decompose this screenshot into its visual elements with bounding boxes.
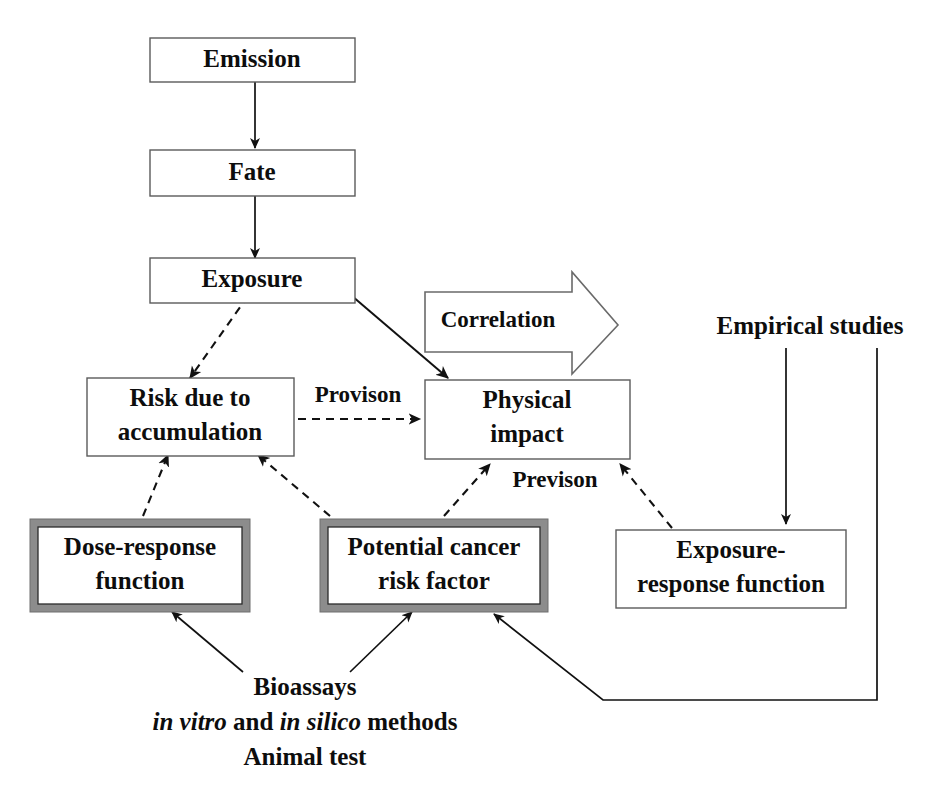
- node-dose-response-function[interactable]: Dose-response function: [30, 519, 250, 612]
- empirical-studies-label: Empirical studies: [717, 312, 904, 339]
- edge-dose-risk: [143, 455, 168, 516]
- node-fate[interactable]: Fate: [150, 150, 355, 196]
- node-risk-due-to-accumulation[interactable]: Risk due to accumulation: [87, 378, 294, 456]
- node-risk-label-line2: accumulation: [118, 418, 263, 445]
- node-cancer-label-line1: Potential cancer: [348, 533, 521, 560]
- diagram-canvas: Correlation Emission Fate Exposure Risk …: [0, 0, 942, 804]
- flowchart-svg: Correlation Emission Fate Exposure Risk …: [0, 0, 942, 804]
- correlation-block-arrow: Correlation: [425, 272, 618, 374]
- node-physical-label-line2: impact: [490, 420, 564, 447]
- in-silico-text: in silico: [280, 708, 361, 735]
- node-physical-impact[interactable]: Physical impact: [425, 380, 630, 459]
- edge-cancer-risk: [258, 455, 330, 516]
- provison-label: Provison: [315, 382, 402, 407]
- bioassays-label: Bioassays: [254, 673, 357, 700]
- node-risk-label-line1: Risk due to: [130, 384, 251, 411]
- node-dose-label-line1: Dose-response: [64, 533, 216, 560]
- node-expresp-label-line2: response function: [637, 570, 825, 597]
- in-vitro-text: in vitro: [153, 708, 227, 735]
- node-physical-label-line1: Physical: [483, 386, 572, 413]
- edge-expresp-physical: [620, 464, 672, 528]
- edge-bioassays-dose: [172, 612, 243, 672]
- node-cancer-label-line2: risk factor: [378, 567, 490, 594]
- edge-exposure-risk: [190, 296, 248, 378]
- node-exposure-label: Exposure: [202, 265, 303, 292]
- node-expresp-label-line1: Exposure-: [676, 536, 785, 563]
- node-emission[interactable]: Emission: [150, 38, 355, 82]
- methods-text: methods: [361, 708, 458, 735]
- edge-cancer-physical: [444, 464, 490, 516]
- node-dose-label-line2: function: [96, 567, 185, 594]
- node-exposure[interactable]: Exposure: [150, 258, 355, 303]
- edge-bioassays-cancer: [350, 612, 412, 672]
- node-exposure-response-function[interactable]: Exposure- response function: [616, 530, 846, 608]
- node-fate-label: Fate: [228, 158, 275, 185]
- correlation-label: Correlation: [441, 307, 556, 332]
- node-potential-cancer-risk-factor[interactable]: Potential cancer risk factor: [320, 519, 548, 612]
- node-emission-label: Emission: [203, 45, 300, 72]
- animal-test-label: Animal test: [244, 743, 368, 770]
- previson-label: Previson: [512, 467, 597, 492]
- methods-line: in vitro and in silico methods: [153, 708, 458, 735]
- and-text: and: [227, 708, 280, 735]
